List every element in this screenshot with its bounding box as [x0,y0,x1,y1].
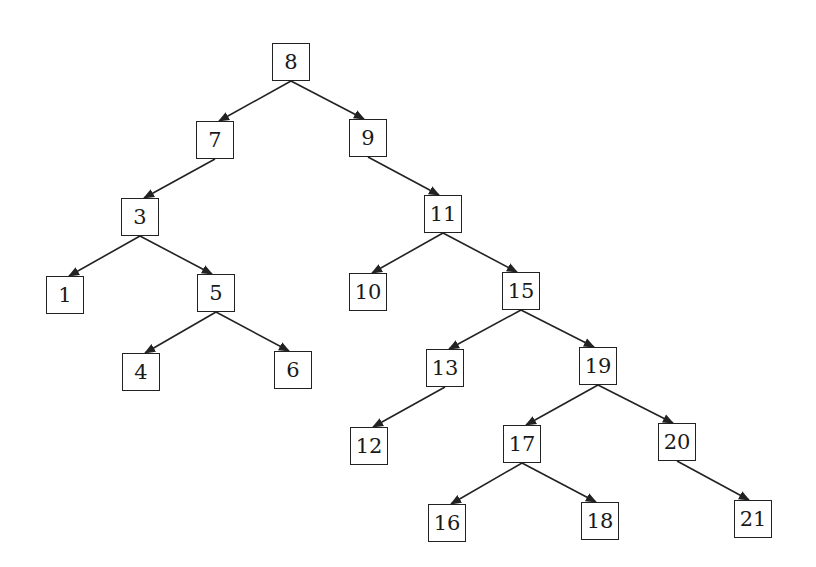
edges-layer [0,0,816,567]
tree-node-11: 11 [424,195,462,233]
tree-node-20: 20 [658,423,696,461]
edge-3-1 [69,236,140,276]
edge-19-20 [598,385,673,423]
edge-17-16 [451,463,522,504]
tree-node-7: 7 [196,121,234,159]
tree-node-3: 3 [121,198,159,236]
tree-node-18: 18 [581,502,619,540]
tree-node-13: 13 [426,349,464,387]
edge-19-17 [526,385,598,425]
tree-node-17: 17 [503,425,541,463]
tree-node-15: 15 [502,272,540,310]
edge-9-11 [368,157,439,195]
tree-diagram: 879311151015461319121720161821 [0,0,816,567]
edge-17-18 [522,463,596,502]
tree-node-5: 5 [197,274,235,312]
tree-node-9: 9 [349,119,387,157]
edge-11-15 [443,233,517,272]
tree-node-4: 4 [122,353,160,391]
edge-3-5 [140,236,212,274]
edge-8-7 [219,81,291,121]
tree-node-19: 19 [579,347,617,385]
tree-node-12: 12 [350,427,388,465]
edge-15-13 [449,310,521,349]
edge-7-3 [144,159,215,198]
edge-8-9 [291,81,364,119]
edge-5-6 [216,312,289,351]
tree-node-16: 16 [428,504,466,542]
tree-node-1: 1 [46,276,84,314]
edge-20-21 [677,461,749,500]
tree-node-21: 21 [734,500,772,538]
edge-15-19 [521,310,594,347]
edge-11-10 [372,233,443,273]
tree-node-10: 10 [349,273,387,311]
tree-node-6: 6 [274,351,312,389]
edge-13-12 [373,387,445,427]
tree-node-8: 8 [272,43,310,81]
edge-5-4 [145,312,216,353]
